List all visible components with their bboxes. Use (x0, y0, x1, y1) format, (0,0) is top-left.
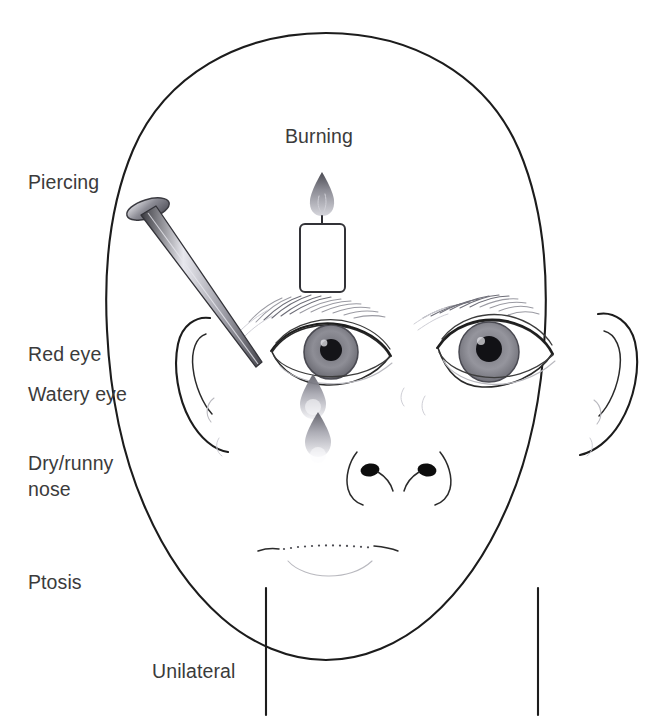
neck (266, 588, 538, 715)
label-watery-eye: Watery eye (28, 383, 127, 405)
nose (347, 452, 451, 505)
label-dry-runny-nose-line2: nose (28, 478, 71, 500)
nail-icon (124, 193, 262, 367)
label-unilateral: Unilateral (152, 660, 235, 682)
label-burning: Burning (285, 125, 353, 147)
eye-left (271, 320, 392, 385)
eye-right (437, 315, 555, 388)
label-dry-runny-nose-line1: Dry/runny (28, 452, 114, 474)
under-eye-crease-right (422, 396, 425, 415)
label-ptosis: Ptosis (28, 571, 82, 593)
ear-left (176, 318, 228, 456)
teardrop-icon-lower (305, 412, 331, 463)
mouth-dotted-line (283, 544, 369, 550)
mouth (258, 544, 398, 576)
label-red-eye: Red eye (28, 343, 101, 365)
ear-right (580, 314, 637, 456)
under-eye-crease-left (401, 388, 404, 406)
symptom-face-diagram: Piercing Burning Red eye Watery eye Dry/… (0, 0, 653, 720)
flame-icon (310, 172, 334, 216)
candle-icon (300, 172, 345, 292)
label-piercing: Piercing (28, 171, 99, 193)
